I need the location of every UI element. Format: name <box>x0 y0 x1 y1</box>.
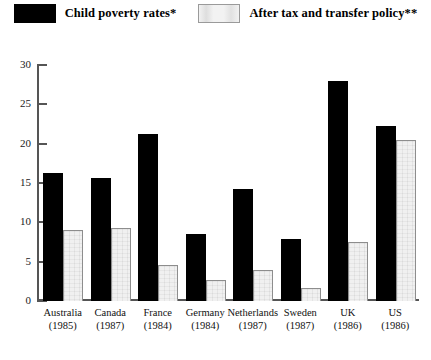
y-axis-tick-label: 25 <box>0 98 31 109</box>
x-axis-labels: Australia(1985)Canada(1987)France(1984)G… <box>39 306 419 350</box>
y-axis-tick-label: 30 <box>0 59 31 70</box>
legend-entry-after-tax: After tax and transfer policy** <box>198 4 417 23</box>
x-axis-label-country: Sweden <box>284 307 317 318</box>
legend-swatch-white-icon <box>198 4 240 23</box>
chart-container: Child poverty rates* After tax and trans… <box>0 0 431 360</box>
bar-child-poverty <box>91 178 111 302</box>
legend-entry-child-poverty: Child poverty rates* <box>14 4 177 23</box>
legend-swatch-black-icon <box>14 4 56 23</box>
bar-after-tax <box>348 242 368 301</box>
bar-child-poverty <box>328 81 348 301</box>
bar-child-poverty <box>43 173 63 301</box>
bar-after-tax <box>396 140 416 301</box>
y-axis-tick-label: 5 <box>0 256 31 267</box>
bar-group <box>229 65 277 301</box>
x-axis-label-country: US <box>389 307 402 318</box>
plot-area: 051015202530 Australia(1985)Canada(1987)… <box>0 34 431 360</box>
x-axis-label-country: France <box>143 307 172 318</box>
bar-after-tax <box>111 228 131 301</box>
bar-group <box>134 65 182 301</box>
bar-group <box>372 65 420 301</box>
y-axis-tick-label: 0 <box>0 295 31 306</box>
bar-child-poverty <box>186 234 206 301</box>
bar-after-tax <box>158 265 178 301</box>
y-axis-tick-label: 15 <box>0 177 31 188</box>
x-axis-label-country: Germany <box>186 307 225 318</box>
bar-group <box>39 65 87 301</box>
x-axis-label-country: UK <box>340 307 355 318</box>
bar-after-tax <box>63 230 83 301</box>
bar-child-poverty <box>281 239 301 301</box>
bar-child-poverty <box>138 134 158 301</box>
chart-legend: Child poverty rates* After tax and trans… <box>0 0 431 34</box>
legend-label-after-tax: After tax and transfer policy** <box>249 6 417 21</box>
x-axis-label-country: Australia <box>44 307 83 318</box>
bar-group <box>182 65 230 301</box>
bar-after-tax <box>206 280 226 301</box>
legend-label-child-poverty: Child poverty rates* <box>65 6 177 21</box>
x-axis-label-country: Canada <box>95 307 127 318</box>
y-axis-tick-label: 10 <box>0 216 31 227</box>
y-axis-tick-label: 20 <box>0 138 31 149</box>
bar-group <box>277 65 325 301</box>
bar-group <box>87 65 135 301</box>
x-axis-label-year: (1986) <box>366 319 426 332</box>
bar-after-tax <box>253 270 273 301</box>
bar-group <box>324 65 372 301</box>
bar-groups <box>39 65 419 301</box>
x-axis-label: US(1986) <box>366 306 426 332</box>
bar-child-poverty <box>233 189 253 301</box>
bar-child-poverty <box>376 126 396 301</box>
bar-after-tax <box>301 288 321 301</box>
